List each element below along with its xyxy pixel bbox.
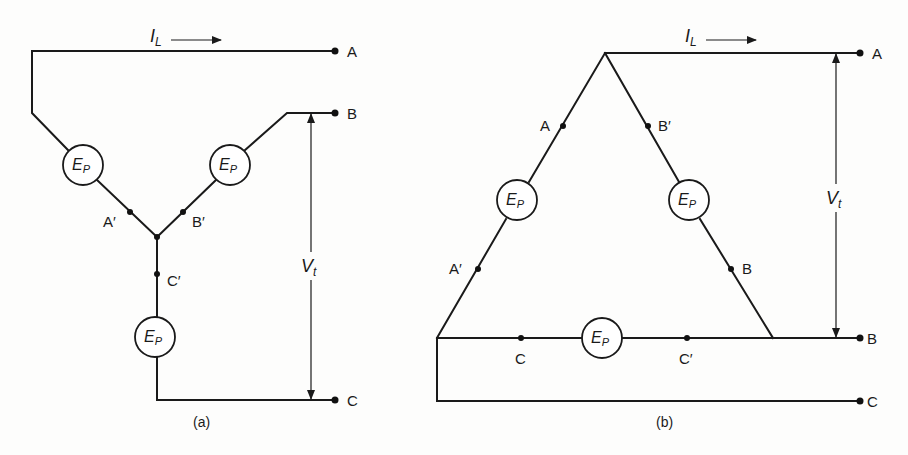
node-c-prime — [154, 271, 160, 277]
terminal-b-dot — [332, 110, 339, 117]
neutral-node — [154, 234, 160, 240]
label-node-b: B — [742, 260, 752, 277]
label-node-a-prime: A′ — [449, 260, 462, 277]
source-ep-a1: EP — [63, 145, 103, 185]
wire-phase-b-a — [245, 113, 335, 150]
diagram-a-wye: IL EP EP EP A′ B′ C′ — [32, 26, 358, 430]
caption-b: (b) — [656, 414, 673, 430]
source-ep-a2: EP — [210, 145, 250, 185]
svg-text:Vt: Vt — [301, 256, 317, 279]
wire-phase-c-a — [157, 357, 335, 400]
wire-phase-c-b — [437, 338, 860, 401]
diagram-b-delta: IL EP EP EP — [437, 26, 882, 430]
node-a-prime — [127, 209, 133, 215]
node-a-prime-b — [475, 266, 481, 272]
figure-canvas: IL EP EP EP A′ B′ C′ — [0, 0, 908, 455]
caption-a: (a) — [193, 414, 210, 430]
delta-left-lower — [437, 219, 506, 338]
three-phase-connection-figure: IL EP EP EP A′ B′ C′ — [0, 0, 908, 455]
wire-phase-a-a — [32, 51, 335, 150]
node-b-prime — [180, 209, 186, 215]
source-ep-a3: EP — [135, 317, 175, 357]
node-c — [518, 335, 524, 341]
terminal-c-label-b: C — [867, 393, 878, 410]
terminal-c-label: C — [347, 392, 358, 409]
terminal-a-dot-b — [857, 50, 864, 57]
terminal-voltage-arrow-b: Vt — [826, 54, 842, 337]
terminal-b-label-b: B — [867, 330, 877, 347]
terminal-voltage-arrow-a: Vt — [301, 114, 317, 399]
label-node-c: C — [515, 350, 526, 367]
svg-text:Vt: Vt — [826, 188, 842, 211]
source-ep-b1: EP — [497, 180, 537, 220]
node-c-prime-b — [684, 335, 690, 341]
svg-text:IL: IL — [685, 26, 697, 49]
terminal-a-dot — [332, 48, 339, 55]
wire-b-to-neutral — [157, 180, 216, 237]
label-node-b-prime: B′ — [658, 117, 671, 134]
node-a — [560, 123, 566, 129]
node-b — [728, 266, 734, 272]
terminal-b-label: B — [347, 105, 357, 122]
source-ep-b3: EP — [582, 318, 622, 358]
delta-right-lower — [700, 219, 773, 338]
terminal-b-dot-b — [857, 335, 864, 342]
node-b-prime-b — [645, 123, 651, 129]
label-b-prime: B′ — [192, 213, 205, 230]
source-ep-b2: EP — [669, 180, 709, 220]
line-current-label-b: IL — [685, 26, 756, 49]
terminal-c-dot — [332, 397, 339, 404]
label-node-c-prime: C′ — [679, 350, 693, 367]
terminal-c-dot-b — [857, 398, 864, 405]
label-c-prime: C′ — [167, 272, 181, 289]
line-current-label-a: IL — [150, 26, 221, 49]
label-node-a: A — [540, 117, 550, 134]
terminal-a-label-b: A — [872, 45, 882, 62]
label-a-prime: A′ — [103, 213, 116, 230]
terminal-a-label: A — [347, 43, 357, 60]
svg-text:IL: IL — [150, 26, 162, 49]
